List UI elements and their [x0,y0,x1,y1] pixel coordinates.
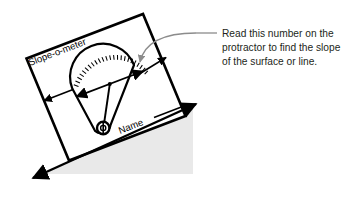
protractor-center-dot [108,82,112,86]
plumb-bob-pivot [97,122,109,134]
annotation-line-3: of the surface or line. [222,56,317,67]
annotation-line-1: Read this number on the [222,28,334,39]
annotation-line-2: protractor to find the slope [222,42,341,53]
slope-o-meter-diagram: Slope-o-meter Name [0,0,351,206]
figure-canvas: Slope-o-meter Name [0,0,351,206]
